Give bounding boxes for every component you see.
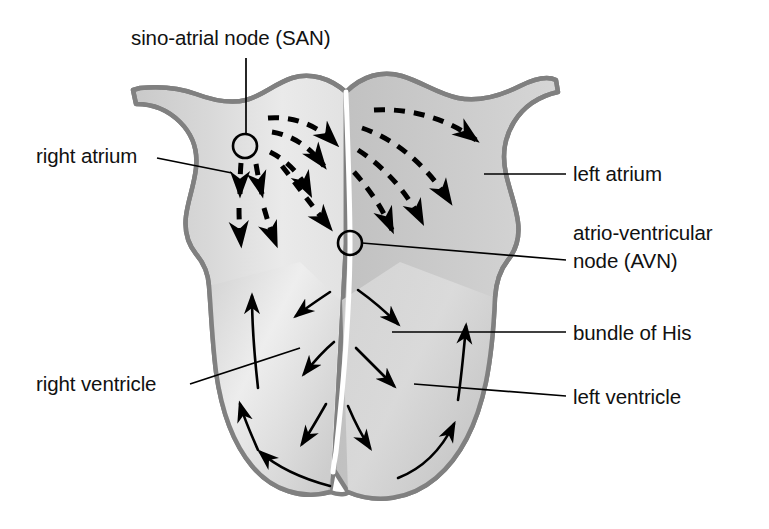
label-right-ventricle: right ventricle [36,372,156,395]
left-ventricle-shading [342,262,495,499]
label-avn-line1: atrio-ventricular [573,221,713,244]
heart-silhouette [133,74,558,499]
right-ventricle-shading [209,262,340,495]
diagram-canvas: sino-atrial node (SAN) right atrium left… [0,0,769,529]
label-left-ventricle: left ventricle [573,385,681,408]
label-right-atrium: right atrium [36,144,137,167]
label-avn-line2: node (AVN) [573,249,678,272]
label-san: sino-atrial node (SAN) [131,26,330,49]
heart-conduction-diagram: sino-atrial node (SAN) right atrium left… [0,0,769,529]
label-bundle-of-his: bundle of His [573,321,691,344]
label-left-atrium: left atrium [573,162,662,185]
